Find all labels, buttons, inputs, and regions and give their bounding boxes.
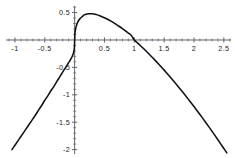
x-tick-label: -1 [11, 44, 18, 53]
y-tick-label: -1 [63, 90, 70, 99]
y-tick-label: 0.5 [59, 8, 70, 17]
plot-canvas: -1-0.50.511.522.5 0.5-0.5-1-1.5-2 [0, 0, 235, 158]
x-tick-label: 2.5 [218, 44, 229, 53]
major-tick-marks [15, 13, 224, 150]
x-tick-label: -0.5 [38, 44, 52, 53]
y-tick-label: -2 [63, 145, 70, 154]
x-axis-tick-labels: -1-0.50.511.522.5 [11, 44, 229, 53]
x-tick-label: 1 [132, 44, 136, 53]
y-tick-label: -0.5 [56, 63, 70, 72]
x-tick-label: 2 [192, 44, 196, 53]
minor-tick-marks [9, 7, 230, 144]
data-curve-line [12, 14, 227, 153]
x-tick-label: 0.5 [99, 44, 110, 53]
x-tick-label: 1.5 [159, 44, 170, 53]
function-plot-figure: -1-0.50.511.522.5 0.5-0.5-1-1.5-2 [0, 0, 235, 158]
y-axis-tick-labels: 0.5-0.5-1-1.5-2 [56, 8, 70, 154]
y-tick-label: -1.5 [56, 118, 70, 127]
